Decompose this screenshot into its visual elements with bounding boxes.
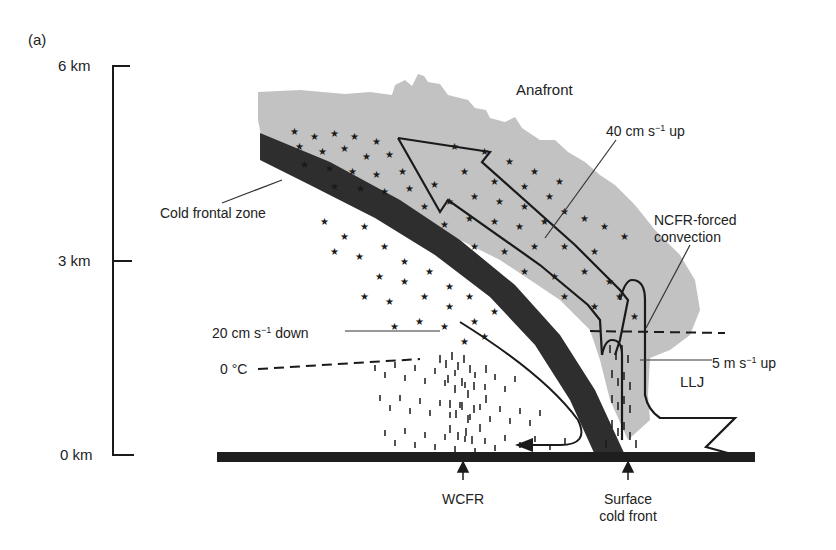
anafront-title: Anafront [516, 82, 573, 98]
svg-text:★: ★ [290, 126, 299, 137]
svg-text:★: ★ [390, 321, 399, 332]
svg-text:★: ★ [490, 216, 499, 227]
svg-text:★: ★ [330, 128, 339, 139]
surface-front-label-line2: cold front [588, 508, 668, 524]
svg-text:★: ★ [470, 241, 479, 252]
svg-text:★: ★ [470, 191, 479, 202]
panel-label: (a) [28, 32, 46, 48]
svg-text:★: ★ [520, 181, 529, 192]
svg-text:★: ★ [415, 316, 424, 327]
svg-text:★: ★ [590, 246, 599, 257]
axis-tick-6km: 6 km [58, 58, 91, 74]
ground-surface [217, 452, 755, 462]
axis-tick-3km: 3 km [58, 253, 91, 269]
up40-text: 40 cm s [606, 123, 655, 139]
svg-text:★: ★ [372, 136, 381, 147]
svg-text:★: ★ [380, 241, 389, 252]
svg-text:★: ★ [330, 181, 339, 192]
svg-text:★: ★ [500, 246, 509, 257]
svg-text:★: ★ [300, 159, 309, 170]
svg-text:★: ★ [310, 131, 319, 142]
down20-exponent: −1 [261, 325, 271, 335]
updraft-40cm-label: 40 cm s−1 up [606, 120, 685, 139]
svg-text:★: ★ [555, 176, 564, 187]
svg-text:★: ★ [340, 143, 349, 154]
svg-text:★: ★ [560, 241, 569, 252]
downdraft-arrowhead [515, 438, 533, 452]
up5-suffix: up [757, 355, 776, 371]
svg-text:★: ★ [530, 166, 539, 177]
svg-text:★: ★ [630, 311, 639, 322]
marker-arrows [458, 462, 633, 480]
svg-text:★: ★ [420, 201, 429, 212]
up5-text: 5 m s [712, 355, 746, 371]
svg-text:★: ★ [580, 266, 589, 277]
svg-text:★: ★ [420, 291, 429, 302]
up5-exponent: −1 [746, 355, 756, 365]
svg-text:★: ★ [460, 336, 469, 347]
svg-text:★: ★ [445, 301, 454, 312]
svg-text:★: ★ [405, 183, 414, 194]
svg-text:★: ★ [495, 196, 504, 207]
anafront-diagram: ★★★★★ ★★★★★ ★★★★★ ★★★★★ ★★★★★ ★★★★★ ★★★★… [0, 0, 836, 550]
svg-text:★: ★ [490, 306, 499, 317]
svg-text:★: ★ [490, 176, 499, 187]
ncfr-label-line2: convection [654, 229, 721, 245]
downdraft-20cm-label: 20 cm s−1 down [212, 322, 309, 341]
svg-text:★: ★ [330, 246, 339, 257]
svg-text:★: ★ [356, 183, 365, 194]
svg-text:★: ★ [372, 169, 381, 180]
svg-text:★: ★ [530, 241, 539, 252]
svg-text:★: ★ [440, 321, 449, 332]
svg-text:★: ★ [348, 166, 357, 177]
svg-text:★: ★ [620, 231, 629, 242]
svg-text:★: ★ [560, 291, 569, 302]
altitude-axis [112, 66, 134, 456]
ncfr-label-line1: NCFR-forced [654, 212, 736, 228]
svg-text:★: ★ [580, 213, 589, 224]
svg-text:★: ★ [385, 296, 394, 307]
wcfr-label: WCFR [433, 491, 493, 507]
svg-text:★: ★ [360, 221, 369, 232]
llj-label: LLJ [680, 374, 704, 390]
updraft-5ms-label: 5 m s−1 up [712, 352, 776, 371]
svg-text:★: ★ [340, 231, 349, 242]
svg-text:★: ★ [350, 131, 359, 142]
svg-text:★: ★ [440, 219, 449, 230]
cold-frontal-zone-label: Cold frontal zone [160, 205, 266, 221]
svg-text:★: ★ [600, 221, 609, 232]
axis-tick-0km: 0 km [60, 447, 93, 463]
svg-text:★: ★ [505, 156, 514, 167]
surface-front-label-line1: Surface [588, 491, 668, 507]
svg-text:★: ★ [325, 163, 334, 174]
down20-text: 20 cm s [212, 325, 261, 341]
svg-text:★: ★ [425, 266, 434, 277]
zero-degree-label: 0 °C [220, 361, 247, 377]
svg-text:★: ★ [320, 216, 329, 227]
svg-text:★: ★ [460, 166, 469, 177]
svg-text:★: ★ [380, 186, 389, 197]
down20-suffix: down [271, 325, 308, 341]
svg-text:★: ★ [400, 276, 409, 287]
svg-text:★: ★ [295, 141, 304, 152]
svg-text:★: ★ [398, 166, 407, 177]
svg-text:★: ★ [400, 256, 409, 267]
svg-text:★: ★ [465, 291, 474, 302]
up40-suffix: up [665, 123, 684, 139]
svg-text:★: ★ [385, 149, 394, 160]
svg-text:★: ★ [362, 151, 371, 162]
svg-text:★: ★ [445, 281, 454, 292]
svg-text:★: ★ [430, 179, 439, 190]
svg-text:★: ★ [545, 191, 554, 202]
svg-text:★: ★ [470, 316, 479, 327]
up40-exponent: −1 [655, 123, 665, 133]
svg-text:★: ★ [360, 291, 369, 302]
svg-text:★: ★ [515, 221, 524, 232]
svg-text:★: ★ [375, 271, 384, 282]
svg-text:★: ★ [355, 251, 364, 262]
svg-text:★: ★ [318, 146, 327, 157]
svg-text:★: ★ [520, 266, 529, 277]
